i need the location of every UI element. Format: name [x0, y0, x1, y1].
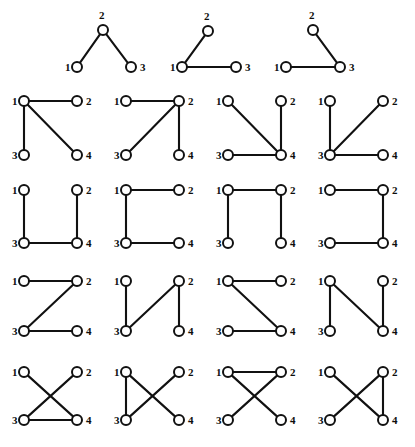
node-2: [174, 367, 184, 377]
node-label-4: 4: [392, 325, 398, 337]
node-4: [276, 238, 286, 248]
node-3: [335, 62, 345, 72]
node-1: [19, 367, 29, 377]
node-2: [174, 96, 184, 106]
node-3: [223, 326, 233, 336]
node-label-4: 4: [392, 414, 398, 426]
node-4: [72, 150, 82, 160]
node-3: [19, 326, 29, 336]
node-1: [281, 62, 291, 72]
node-4: [276, 326, 286, 336]
node-label-4: 4: [290, 414, 296, 426]
graph-r2-c1: 1234: [12, 95, 92, 161]
node-label-4: 4: [86, 414, 92, 426]
node-label-2: 2: [290, 184, 296, 196]
node-3: [19, 150, 29, 160]
node-3: [231, 62, 241, 72]
graph-canvas: 1231231231234123412341234123412341234123…: [0, 0, 415, 447]
node-4: [174, 326, 184, 336]
graph-r2-c4: 1234: [318, 95, 398, 161]
node-label-2: 2: [86, 366, 92, 378]
node-label-3: 3: [216, 414, 222, 426]
node-2: [72, 96, 82, 106]
node-label-2: 2: [188, 184, 194, 196]
node-4: [378, 415, 388, 425]
node-1: [325, 96, 335, 106]
node-label-2: 2: [392, 366, 398, 378]
node-label-4: 4: [290, 325, 296, 337]
node-label-2: 2: [309, 9, 315, 21]
graph-row-5: 1234123412341234: [12, 366, 398, 426]
node-label-4: 4: [86, 149, 92, 161]
node-label-1: 1: [65, 61, 71, 73]
node-label-3: 3: [216, 149, 222, 161]
node-2: [72, 367, 82, 377]
edge-1-4: [232, 105, 278, 152]
node-label-1: 1: [216, 366, 222, 378]
node-3: [223, 415, 233, 425]
node-label-1: 1: [12, 275, 18, 287]
node-label-1: 1: [114, 95, 120, 107]
node-label-1: 1: [318, 275, 324, 287]
graph-r5-c3: 1234: [216, 366, 296, 426]
graph-r1-c1: 123: [65, 9, 146, 73]
node-2: [72, 276, 82, 286]
node-label-1: 1: [216, 95, 222, 107]
graph-r2-c3: 1234: [216, 95, 296, 161]
graph-r4-c2: 1234: [114, 275, 194, 337]
node-1: [121, 185, 131, 195]
node-label-2: 2: [290, 95, 296, 107]
node-4: [72, 326, 82, 336]
node-label-1: 1: [170, 61, 176, 73]
node-label-3: 3: [12, 325, 18, 337]
node-2: [378, 276, 388, 286]
node-label-2: 2: [204, 10, 210, 22]
node-4: [276, 415, 286, 425]
node-label-3: 3: [12, 149, 18, 161]
graph-row-1: 123123123: [65, 9, 355, 73]
node-label-1: 1: [114, 184, 120, 196]
edge-2-3: [28, 284, 74, 327]
node-3: [121, 238, 131, 248]
edge-1-4: [28, 105, 74, 152]
node-label-2: 2: [392, 275, 398, 287]
edge-1-4: [334, 284, 380, 327]
node-2: [174, 276, 184, 286]
graph-r5-c1: 1234: [12, 366, 92, 426]
node-label-1: 1: [114, 275, 120, 287]
node-label-1: 1: [318, 184, 324, 196]
node-3: [121, 150, 131, 160]
node-1: [223, 96, 233, 106]
node-4: [72, 238, 82, 248]
node-1: [121, 276, 131, 286]
node-3: [223, 238, 233, 248]
node-1: [121, 367, 131, 377]
node-3: [325, 150, 335, 160]
node-2: [308, 25, 318, 35]
graph-r4-c1: 1234: [12, 275, 92, 337]
node-1: [325, 185, 335, 195]
node-3: [325, 415, 335, 425]
node-3: [325, 326, 335, 336]
node-label-3: 3: [140, 61, 146, 73]
node-label-3: 3: [114, 149, 120, 161]
node-1: [19, 185, 29, 195]
node-label-3: 3: [245, 61, 251, 73]
node-4: [276, 150, 286, 160]
node-1: [121, 96, 131, 106]
node-label-1: 1: [274, 61, 280, 73]
node-label-3: 3: [114, 325, 120, 337]
node-1: [223, 185, 233, 195]
graph-r5-c2: 1234: [114, 366, 194, 426]
graph-row-3: 1234123412341234: [12, 184, 398, 249]
node-label-2: 2: [392, 95, 398, 107]
edge-1-2: [185, 35, 205, 63]
node-2: [276, 367, 286, 377]
edge-1-2: [80, 34, 100, 63]
node-label-3: 3: [318, 237, 324, 249]
node-1: [325, 367, 335, 377]
node-label-3: 3: [318, 149, 324, 161]
node-1: [223, 367, 233, 377]
node-label-1: 1: [318, 95, 324, 107]
node-3: [121, 326, 131, 336]
